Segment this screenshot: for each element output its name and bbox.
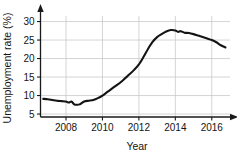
unemployment-rate-curve xyxy=(43,30,225,105)
x-tick-label: 2008 xyxy=(55,122,78,133)
x-tick-label: 2014 xyxy=(164,122,187,133)
y-axis-tick-labels: 51015202530 xyxy=(23,16,35,119)
y-tick-label: 5 xyxy=(29,109,35,120)
x-tick-label: 2012 xyxy=(128,122,151,133)
x-axis-title: Year xyxy=(126,140,148,152)
y-tick-label: 10 xyxy=(23,90,35,101)
y-axis-arrowhead xyxy=(37,4,43,12)
x-tick-label: 2016 xyxy=(201,122,224,133)
y-axis-title: Unemployment rate (%) xyxy=(1,13,13,124)
y-tick-label: 15 xyxy=(23,72,35,83)
y-tick-label: 20 xyxy=(23,53,35,64)
unemployment-rate-line-chart: 51015202530 20082010201220142016 Year Un… xyxy=(0,0,237,154)
x-axis-tick-labels: 20082010201220142016 xyxy=(55,122,223,133)
x-tick-label: 2010 xyxy=(91,122,114,133)
y-tick-label: 30 xyxy=(23,16,35,27)
chart-container: 51015202530 20082010201220142016 Year Un… xyxy=(0,0,237,154)
x-axis-arrowhead xyxy=(230,114,237,120)
y-tick-label: 25 xyxy=(23,35,35,46)
